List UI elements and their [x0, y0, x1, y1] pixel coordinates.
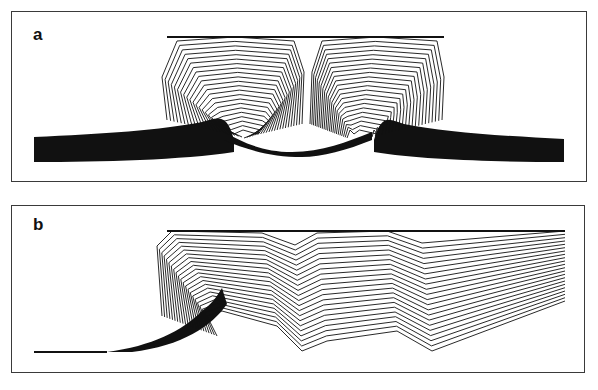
contour-diagram-b	[12, 206, 586, 374]
panel-b: b	[11, 205, 585, 373]
contour-diagram-a	[12, 12, 588, 183]
panel-a: a	[11, 11, 587, 182]
